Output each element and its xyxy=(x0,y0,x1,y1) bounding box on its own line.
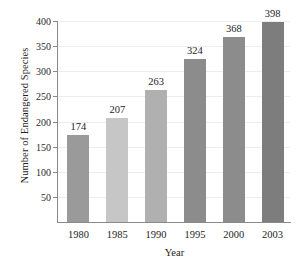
bar-value-label: 207 xyxy=(109,104,125,115)
bar-group: 1741980 xyxy=(67,21,89,222)
bar-group: 3982003 xyxy=(262,21,284,222)
bar: 324 xyxy=(184,59,206,222)
y-tick-label: 100 xyxy=(36,166,51,177)
x-tick-label: 1990 xyxy=(146,229,167,240)
bar: 368 xyxy=(223,37,245,222)
y-tick-label: 50 xyxy=(41,191,51,202)
bar: 263 xyxy=(145,90,167,222)
x-axis-title: Year xyxy=(57,247,292,258)
y-axis-title: Number of Endangered Species xyxy=(19,16,30,216)
y-tick-label: 250 xyxy=(36,91,51,102)
bar-group: 3241995 xyxy=(184,21,206,222)
y-tick-mark xyxy=(53,46,57,47)
x-tick-label: 2000 xyxy=(223,229,244,240)
x-tick-label: 2003 xyxy=(262,229,283,240)
bar-value-label: 368 xyxy=(226,23,242,34)
y-tick-label: 200 xyxy=(36,116,51,127)
gridline xyxy=(58,172,290,173)
y-tick-mark xyxy=(53,71,57,72)
bar-value-label: 324 xyxy=(187,45,203,56)
y-tick-mark xyxy=(53,21,57,22)
gridline xyxy=(58,147,290,148)
gridline xyxy=(58,21,290,22)
y-tick-mark xyxy=(53,96,57,97)
x-tick-label: 1985 xyxy=(107,229,128,240)
bar-group: 2071985 xyxy=(106,21,128,222)
y-tick-mark xyxy=(53,147,57,148)
gridline xyxy=(58,122,290,123)
x-tick-label: 1995 xyxy=(184,229,205,240)
bar: 174 xyxy=(67,135,89,222)
bar-value-label: 174 xyxy=(71,121,87,132)
x-axis-line xyxy=(57,222,291,223)
y-tick-mark xyxy=(53,197,57,198)
y-tick-label: 350 xyxy=(36,41,51,52)
bar-group: 2631990 xyxy=(145,21,167,222)
x-tick-label: 1980 xyxy=(68,229,89,240)
bar: 398 xyxy=(262,22,284,222)
bar-value-label: 263 xyxy=(148,76,164,87)
y-tick-mark xyxy=(53,172,57,173)
bar-value-label: 398 xyxy=(265,8,281,19)
gridline xyxy=(58,96,290,97)
gridline xyxy=(58,46,290,47)
y-tick-label: 300 xyxy=(36,66,51,77)
y-tick-label: 400 xyxy=(36,16,51,27)
y-tick-mark xyxy=(53,122,57,123)
bar-chart-figure: Number of Endangered Species 50100150200… xyxy=(0,0,306,266)
bar-group: 3682000 xyxy=(223,21,245,222)
gridline xyxy=(58,197,290,198)
bar: 207 xyxy=(106,118,128,222)
plot-area: 50100150200250300350400 1741980207198526… xyxy=(57,21,290,222)
gridline xyxy=(58,71,290,72)
y-tick-label: 150 xyxy=(36,141,51,152)
